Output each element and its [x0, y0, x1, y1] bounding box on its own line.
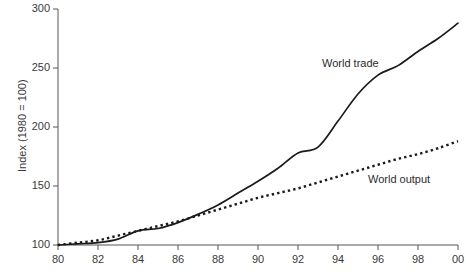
- y-axis-ticks: [53, 9, 58, 245]
- series-line-world-output: [58, 141, 458, 245]
- plot-area: [0, 0, 466, 280]
- axis-lines: [58, 9, 458, 245]
- series-line-world-trade: [58, 23, 458, 245]
- x-axis-ticks: [58, 245, 458, 250]
- data-series: [58, 23, 458, 245]
- chart-container: Index (1980 = 100) 100150200250300 80828…: [0, 0, 466, 280]
